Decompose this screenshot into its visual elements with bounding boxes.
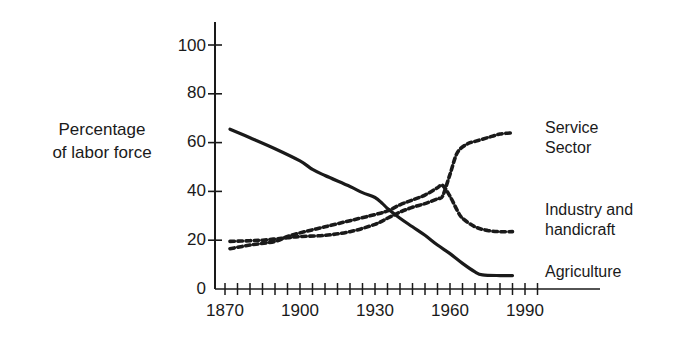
plot-area	[0, 0, 677, 350]
labor-force-chart: Percentage of labor force 100 80 60 40 2…	[0, 0, 677, 350]
series-line-agriculture	[230, 129, 513, 275]
